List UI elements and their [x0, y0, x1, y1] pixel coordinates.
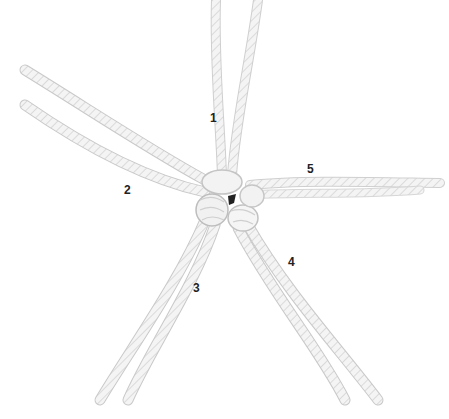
strand-1 [216, 0, 258, 175]
strand-label-5: 5 [307, 163, 314, 175]
knot-photo: 1 2 3 4 5 [0, 0, 449, 419]
strand-label-4: 4 [288, 256, 295, 268]
knot-body [196, 170, 264, 231]
strand-2 [25, 70, 205, 192]
rope-knot-image [0, 0, 449, 419]
strand-label-2: 2 [124, 184, 131, 196]
strand-label-3: 3 [193, 282, 200, 294]
strand-label-1: 1 [210, 112, 217, 124]
knot-center-hole [228, 194, 236, 205]
strand-3 [100, 220, 215, 400]
strand-5 [250, 182, 440, 195]
strand-4 [238, 225, 378, 400]
